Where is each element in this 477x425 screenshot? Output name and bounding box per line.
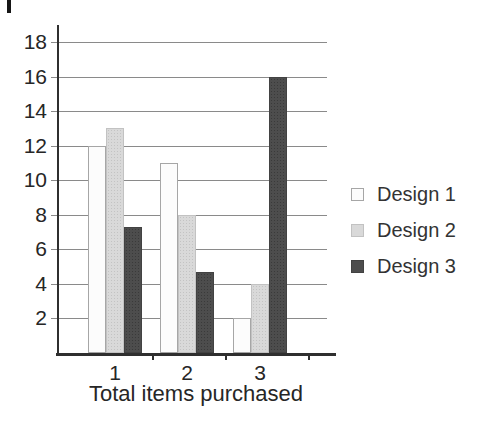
x-category-label-3: 3	[240, 361, 280, 385]
legend-item-design-2: Design 2	[351, 219, 456, 241]
bar-design-1-category-1	[88, 146, 106, 353]
bar-design-2-category-2	[178, 215, 196, 353]
legend-swatch-design-2	[351, 224, 364, 237]
y-tick-label-12: 12	[9, 135, 47, 157]
y-tick-label-14: 14	[9, 100, 47, 122]
bar-design-3-category-2	[196, 272, 214, 353]
bar-design-2-category-1	[106, 128, 124, 353]
bar-design-3-category-3	[269, 77, 287, 353]
gridline-18	[51, 42, 327, 43]
legend: Design 1 Design 2 Design 3	[351, 183, 456, 277]
x-category-label-2: 2	[167, 361, 207, 385]
y-tick-label-2: 2	[9, 307, 47, 329]
x-axis-line	[56, 353, 336, 356]
y-tick-label-10: 10	[9, 169, 47, 191]
y-tick-label-18: 18	[9, 31, 47, 53]
scanned-chart-page: 24681012141618 123 Total items purchased…	[0, 0, 477, 425]
legend-item-design-1: Design 1	[351, 183, 456, 205]
x-axis-tick-3	[308, 353, 310, 360]
y-tick-label-6: 6	[9, 238, 47, 260]
y-tick-label-4: 4	[9, 273, 47, 295]
x-axis-tick-1	[152, 353, 154, 360]
y-axis-line	[57, 25, 59, 355]
grouped-bar-chart: 24681012141618 123 Total items purchased…	[0, 0, 477, 425]
legend-swatch-design-3	[351, 260, 364, 273]
bar-design-2-category-3	[251, 284, 269, 353]
y-tick-label-16: 16	[9, 66, 47, 88]
legend-swatch-design-1	[351, 188, 364, 201]
x-category-label-1: 1	[95, 361, 135, 385]
bar-design-1-category-2	[160, 163, 178, 353]
bar-design-1-category-3	[233, 318, 251, 353]
legend-item-design-3: Design 3	[351, 255, 456, 277]
legend-label-design-1: Design 1	[377, 183, 456, 206]
legend-label-design-2: Design 2	[377, 219, 456, 242]
legend-label-design-3: Design 3	[377, 255, 456, 278]
bar-design-3-category-1	[124, 227, 142, 353]
y-tick-label-8: 8	[9, 204, 47, 226]
x-axis-tick-2	[225, 353, 227, 360]
